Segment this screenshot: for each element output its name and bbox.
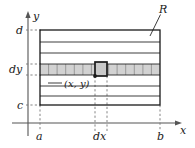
x-axis-label: x <box>180 124 187 137</box>
y-axis-label: y <box>32 10 40 23</box>
y-tick-label-c: c <box>17 99 23 112</box>
region-label-R: R <box>158 3 167 16</box>
r-leader-line <box>150 15 161 37</box>
diagram-canvas: y x R d dy c a dx b (x, y) <box>0 0 195 148</box>
guide-lines-group <box>26 30 160 131</box>
point-marker <box>93 74 97 78</box>
integration-region-diagram: y x R d dy c a dx b (x, y) <box>0 0 195 148</box>
area-element-cell <box>95 62 107 76</box>
x-tick-label-b: b <box>157 130 164 143</box>
y-axis-arrowhead <box>25 11 30 18</box>
y-tick-label-d: d <box>16 24 23 37</box>
point-coordinate-label: (x, y) <box>64 78 90 89</box>
x-tick-label-dx: dx <box>93 130 107 143</box>
y-tick-label-dy: dy <box>9 63 23 76</box>
x-tick-label-a: a <box>36 130 43 143</box>
